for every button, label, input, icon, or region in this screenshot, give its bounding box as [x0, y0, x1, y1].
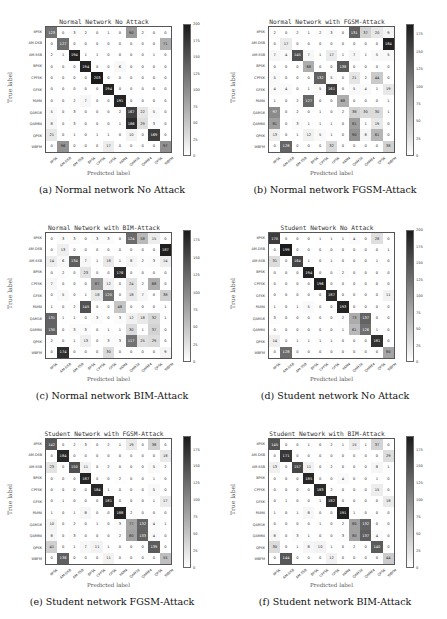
colorbar-tick: 100 [416, 85, 423, 89]
matrix-cell: 0 [46, 553, 57, 564]
matrix-cell: 0 [280, 118, 291, 129]
matrix-cell: 0 [126, 473, 137, 484]
matrix-cell: 14 [269, 335, 280, 346]
matrix-cell: 0 [148, 141, 159, 152]
matrix-cell: 0 [360, 462, 371, 473]
colorbar [406, 230, 414, 362]
matrix-cell: 0 [160, 541, 171, 552]
matrix-cell: 0 [57, 129, 68, 140]
matrix-cell: 1 [383, 95, 394, 106]
matrix-cell: 0 [280, 278, 291, 289]
matrix-cell: 0 [269, 278, 280, 289]
matrix-cell: 1 [292, 507, 303, 518]
matrix-cell: 0 [91, 244, 102, 255]
matrix-cell: 0 [383, 519, 394, 530]
matrix-cell: 0 [292, 84, 303, 95]
matrix-cell: 11 [383, 290, 394, 301]
matrix-cell: 0 [69, 278, 80, 289]
matrix-cell: 0 [137, 50, 148, 61]
matrix-cell: 0 [280, 519, 291, 530]
x-axis-title: Predicted label [45, 582, 172, 588]
matrix-cell: 0 [337, 141, 348, 152]
matrix-cell: 20 [371, 27, 382, 38]
matrix-cell: 0 [292, 267, 303, 278]
matrix-cell: 0 [292, 290, 303, 301]
matrix-cell: 1 [314, 496, 325, 507]
y-tick-label: 8PSK [225, 26, 267, 38]
matrix-cell: 0 [57, 530, 68, 541]
matrix-cell: 199 [280, 244, 291, 255]
matrix-cell: 1 [80, 290, 91, 301]
colorbar-tick: 150 [416, 50, 423, 54]
matrix-cell: 0 [126, 267, 137, 278]
matrix-cell: 2 [114, 107, 125, 118]
matrix-cell: 0 [269, 473, 280, 484]
colorbar-tick: 125 [416, 481, 423, 485]
matrix-cell: 0 [80, 118, 91, 129]
matrix-cell: 0 [269, 141, 280, 152]
matrix-cell: 0 [160, 84, 171, 95]
matrix-cell: 0 [137, 347, 148, 358]
matrix-cell: 0 [114, 450, 125, 461]
matrix-cell: 0 [337, 484, 348, 495]
matrix-cell: 0 [137, 439, 148, 450]
matrix-cell: 0 [303, 38, 314, 49]
matrix-cell: 120 [103, 290, 114, 301]
matrix-cell: 117 [126, 335, 137, 346]
colorbar-tick: 200 [193, 22, 200, 26]
matrix-cell: 193 [337, 301, 348, 312]
matrix-cell: 0 [57, 95, 68, 106]
matrix-cell: 1 [360, 439, 371, 450]
matrix-cell: 0 [371, 507, 382, 518]
matrix-cell: 0 [349, 553, 360, 564]
matrix-cell: 1 [280, 496, 291, 507]
matrix-cell: 0 [371, 553, 382, 564]
matrix-cell: 0 [292, 141, 303, 152]
matrix-cell: 31 [269, 256, 280, 267]
matrix-cell: 0 [337, 129, 348, 140]
matrix-cell: 0 [91, 27, 102, 38]
matrix-cell: 0 [269, 290, 280, 301]
matrix-cell: 0 [371, 38, 382, 49]
matrix-cell: 0 [80, 553, 91, 564]
matrix-cell: 1 [326, 118, 337, 129]
matrix-cell: 0 [126, 541, 137, 552]
matrix-cell: 0 [349, 462, 360, 473]
y-tick-label: BPSK [2, 267, 44, 279]
colorbar-tick: 125 [193, 72, 200, 76]
matrix-cell: 182 [326, 496, 337, 507]
matrix-cell: 0 [126, 484, 137, 495]
matrix-cell: 0 [160, 473, 171, 484]
colorbar-tick: 75 [416, 102, 421, 106]
matrix-cell: 0 [137, 462, 148, 473]
y-tick-label: WBFM [2, 347, 44, 359]
matrix-cell: 2 [349, 541, 360, 552]
matrix-cell: 0 [314, 462, 325, 473]
matrix-cell: 0 [360, 507, 371, 518]
matrix-cell: 4 [360, 84, 371, 95]
matrix-cell: 0 [314, 301, 325, 312]
matrix-cell: 0 [349, 95, 360, 106]
y-tick-label: QPSK [225, 130, 267, 142]
matrix-cell: 0 [57, 507, 68, 518]
matrix-cell: 0 [91, 462, 102, 473]
matrix-cell: 0 [349, 496, 360, 507]
matrix-cell: 2 [292, 27, 303, 38]
matrix-cell: 0 [303, 496, 314, 507]
y-tick-label: AM-SSB [2, 49, 44, 61]
colorbar-tick: 0 [193, 154, 195, 158]
colorbar-tick: 0 [416, 566, 418, 570]
matrix-cell: 1 [269, 507, 280, 518]
confusion-matrix: 1420230211903800184000000001823015011020… [45, 438, 172, 565]
matrix-cell: 2 [126, 507, 137, 518]
matrix-cell: 0 [303, 347, 314, 358]
matrix-cell: 0 [360, 496, 371, 507]
matrix-cell: 3 [148, 118, 159, 129]
x-tick-labels: 8PSKAM-DSBAM-SSBBPSKCPFSKGFSKPAM4QAM16QA… [45, 360, 172, 374]
matrix-cell: 17 [103, 141, 114, 152]
colorbar-ticks: 0255075100125150175 [193, 436, 217, 568]
colorbar-tick: 25 [416, 549, 421, 553]
matrix-cell: 1 [326, 233, 337, 244]
matrix-cell: 7 [137, 290, 148, 301]
matrix-cell: 2 [137, 256, 148, 267]
